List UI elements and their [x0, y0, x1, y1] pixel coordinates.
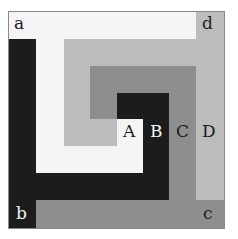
band-label-A: A	[123, 123, 135, 140]
corner-label-d: d	[202, 15, 213, 32]
band-d-bottom	[64, 119, 117, 146]
nested-l-diagram: a d b c A B C D	[9, 12, 224, 228]
band-label-D: D	[202, 123, 216, 140]
corner-label-c: c	[203, 205, 213, 222]
band-label-B: B	[150, 123, 163, 140]
band-c-top	[90, 66, 196, 93]
corner-label-a: a	[14, 15, 24, 32]
corner-label-b: b	[16, 205, 27, 222]
band-c-right	[169, 93, 196, 200]
band-a-inner-bottom	[36, 146, 143, 173]
band-c-left	[90, 93, 117, 119]
band-b-bottom	[36, 173, 169, 200]
band-b-left	[9, 39, 36, 228]
band-a-top	[9, 12, 196, 39]
band-label-C: C	[176, 123, 189, 140]
band-d-right	[196, 12, 224, 200]
band-d-top	[64, 39, 196, 66]
band-b-inner-top	[117, 93, 169, 119]
